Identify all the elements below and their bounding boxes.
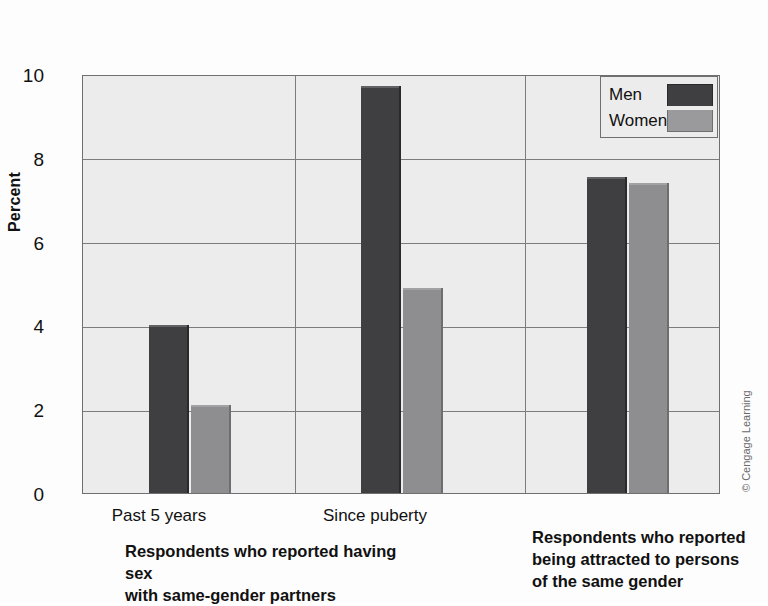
legend-label-men: Men [609, 86, 642, 103]
bar-women-attracted [629, 183, 669, 493]
category-label-past-5-years: Past 5 years [84, 506, 234, 526]
y-tick-label-2: 2 [4, 401, 44, 420]
bar-men-attracted [587, 177, 627, 493]
group-separator-1 [295, 76, 296, 493]
y-tick-label-6: 6 [4, 234, 44, 253]
bar-men-since-puberty [361, 86, 401, 493]
caption-right-line-1: Respondents who reported [532, 527, 747, 549]
category-label-since-puberty: Since puberty [295, 506, 455, 526]
bar-highlight [587, 177, 625, 179]
group-separator-2 [525, 76, 526, 493]
bar-highlight [403, 288, 441, 290]
bar-highlight [149, 325, 187, 327]
bar-highlight [629, 183, 667, 185]
legend-item-women: Women [609, 108, 713, 133]
men-swatch-icon [667, 84, 713, 106]
bar-women-past-5-years [191, 405, 231, 493]
legend-item-men: Men [609, 82, 713, 107]
caption-right: Respondents who reported being attracted… [532, 527, 747, 592]
bar-men-past-5-years [149, 325, 189, 493]
y-tick-label-8: 8 [4, 150, 44, 169]
caption-left-line-1: Respondents who reported having sex [125, 541, 425, 585]
bar-women-since-puberty [403, 288, 443, 493]
caption-left: Respondents who reported having sex with… [125, 541, 425, 606]
bar-highlight [361, 86, 399, 88]
gridline-8 [83, 159, 719, 160]
copyright-credit: © Cengage Learning [740, 390, 752, 492]
y-tick-label-10: 10 [4, 66, 44, 85]
y-tick-label-0: 0 [4, 485, 44, 504]
bar-highlight [191, 405, 229, 407]
women-swatch-icon [667, 110, 713, 132]
caption-right-line-3: of the same gender [532, 571, 747, 593]
caption-right-line-2: being attracted to persons [532, 549, 747, 571]
y-tick-label-4: 4 [4, 317, 44, 336]
legend-label-women: Women [609, 112, 667, 129]
y-axis-title: Percent [6, 172, 24, 232]
legend: Men Women [600, 76, 718, 138]
caption-left-line-2: with same-gender partners [125, 585, 425, 606]
